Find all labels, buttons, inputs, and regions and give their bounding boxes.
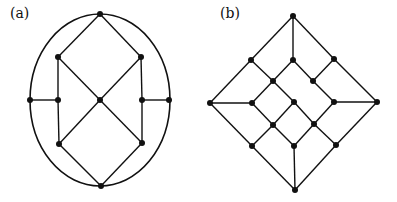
graph-node	[310, 78, 316, 84]
graph-node	[249, 100, 255, 106]
graph-edge	[252, 125, 273, 146]
graph-node	[207, 100, 213, 106]
graph-panel-a	[27, 11, 172, 189]
graph-edge	[100, 14, 141, 57]
graph-node	[291, 143, 297, 149]
graph-node	[291, 99, 297, 105]
graph-edge	[58, 14, 100, 57]
graph-node	[248, 57, 254, 63]
graph-node	[139, 97, 145, 103]
graph-edge	[252, 81, 273, 103]
graph-edge	[336, 102, 377, 145]
graph-edge	[59, 100, 100, 144]
graph-edge	[313, 59, 334, 81]
graph-node	[97, 11, 103, 17]
graph-node	[166, 97, 172, 103]
graph-node	[311, 121, 317, 127]
graph-edge	[293, 16, 334, 59]
graph-node	[331, 99, 337, 105]
graph-edge	[100, 57, 141, 100]
graph-node	[270, 78, 276, 84]
graph-node	[290, 57, 296, 63]
graph-edge	[334, 59, 377, 102]
graph-diagram	[0, 0, 397, 202]
graph-edge	[273, 102, 294, 125]
graph-node	[270, 122, 276, 128]
graph-edge	[273, 125, 294, 146]
graph-node	[98, 183, 104, 189]
graph-edge	[295, 145, 336, 190]
panel-a-label: (a)	[10, 5, 29, 21]
graph-panel-b	[207, 13, 380, 193]
graph-edge	[210, 60, 251, 103]
graph-edge	[210, 103, 252, 146]
graph-edge	[59, 144, 101, 186]
graph-edge	[251, 16, 293, 60]
graph-node	[56, 141, 62, 147]
graph-edge	[294, 102, 314, 124]
graph-node	[55, 54, 61, 60]
graph-edge	[101, 143, 142, 186]
graph-edge	[273, 81, 294, 102]
graph-edge	[252, 146, 295, 190]
graph-node	[333, 142, 339, 148]
graph-edge	[294, 146, 295, 190]
graph-edge	[314, 102, 334, 124]
graph-node	[249, 143, 255, 149]
panel-b-label: (b)	[220, 5, 240, 21]
graph-edge	[58, 100, 59, 144]
graph-node	[27, 97, 33, 103]
graph-node	[290, 13, 296, 19]
graph-node	[139, 140, 145, 146]
graph-node	[97, 97, 103, 103]
graph-node	[138, 54, 144, 60]
graph-edge	[58, 57, 100, 100]
graph-node	[374, 99, 380, 105]
graph-edge	[251, 60, 273, 81]
graph-edge	[273, 60, 293, 81]
graph-node	[331, 56, 337, 62]
graph-node	[55, 97, 61, 103]
graph-edge	[293, 60, 313, 81]
graph-edge	[141, 57, 142, 100]
graph-edge	[100, 100, 142, 143]
graph-node	[292, 187, 298, 193]
graph-edge	[313, 81, 334, 102]
graph-edge	[314, 124, 336, 145]
graph-edge	[252, 103, 273, 125]
graph-edge	[294, 124, 314, 146]
